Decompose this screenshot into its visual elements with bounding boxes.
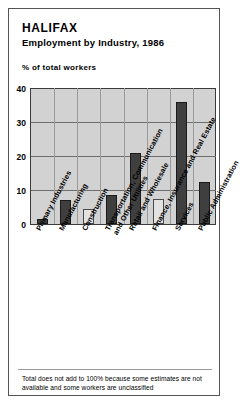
chart-subtitle: Employment by Industry, 1986 [22,36,212,49]
y-tick-label: 10 [0,186,26,196]
chart-footnote: Total does not add to 100% because some … [22,375,214,392]
x-axis-labels: Primary IndustriesManufacturingConstruct… [0,226,212,346]
footnote-divider [18,369,212,370]
title-block: HALIFAX Employment by Industry, 1986 [22,21,212,49]
y-tick-label: 40 [0,84,26,94]
y-tick-label: 20 [0,152,26,162]
page-title: HALIFAX [22,21,212,35]
y-tick-label: 30 [0,118,26,128]
y-axis-caption: % of total workers [22,63,96,72]
